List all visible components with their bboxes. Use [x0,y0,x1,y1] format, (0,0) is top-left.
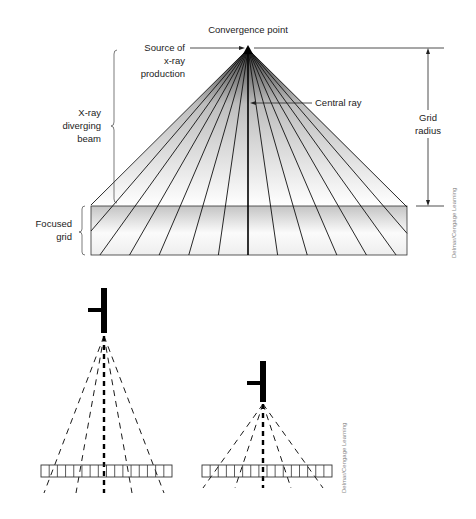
xray-tube-arm-icon [88,308,101,312]
tube-near [202,361,332,488]
central-ray-label: Central ray [315,97,362,108]
grid-radius-arrow-down-icon [426,200,430,206]
credit-top: Delmar/Cengage Learning [451,188,457,258]
source-arrowhead-icon [239,46,245,50]
diverging-beam-shape [91,49,407,206]
top-figure: Convergence point Source of x-ray produc… [36,24,457,258]
convergence-point-label: Convergence point [208,24,288,35]
beam-label-line2: diverging [62,120,101,131]
grid-radius-arrow-up-icon [426,48,430,54]
tube-far [41,288,172,493]
beam-label-line1: X-ray [78,107,101,118]
divergent-ray-dashed [104,336,132,493]
xray-tube-icon [260,361,266,402]
divergent-ray-dashed [104,336,164,493]
focused-grid-label-line1: Focused [36,218,72,229]
focused-grid [91,206,407,255]
credit-bottom: Delmar/Cengage Learning [341,423,347,493]
xray-tube-arm-icon [247,381,260,385]
source-label-line3: production [141,68,185,79]
grid-radius-label-line1: Grid [419,112,437,123]
divergent-ray-dashed [203,404,263,488]
xray-tube-icon [101,288,107,333]
focused-grid-label-line2: grid [56,231,72,242]
source-label-line1: Source of [144,42,185,53]
divergent-ray-dashed [263,404,323,488]
grid-radius-label-line2: radius [415,125,441,136]
focused-grid-diagram: Convergence point Source of x-ray produc… [0,0,476,519]
convergence-point-icon [243,45,253,54]
beam-label-line3: beam [77,133,101,144]
bottom-figure [41,288,332,493]
source-label-line2: x-ray [164,55,185,66]
grid-bracket [79,206,85,255]
